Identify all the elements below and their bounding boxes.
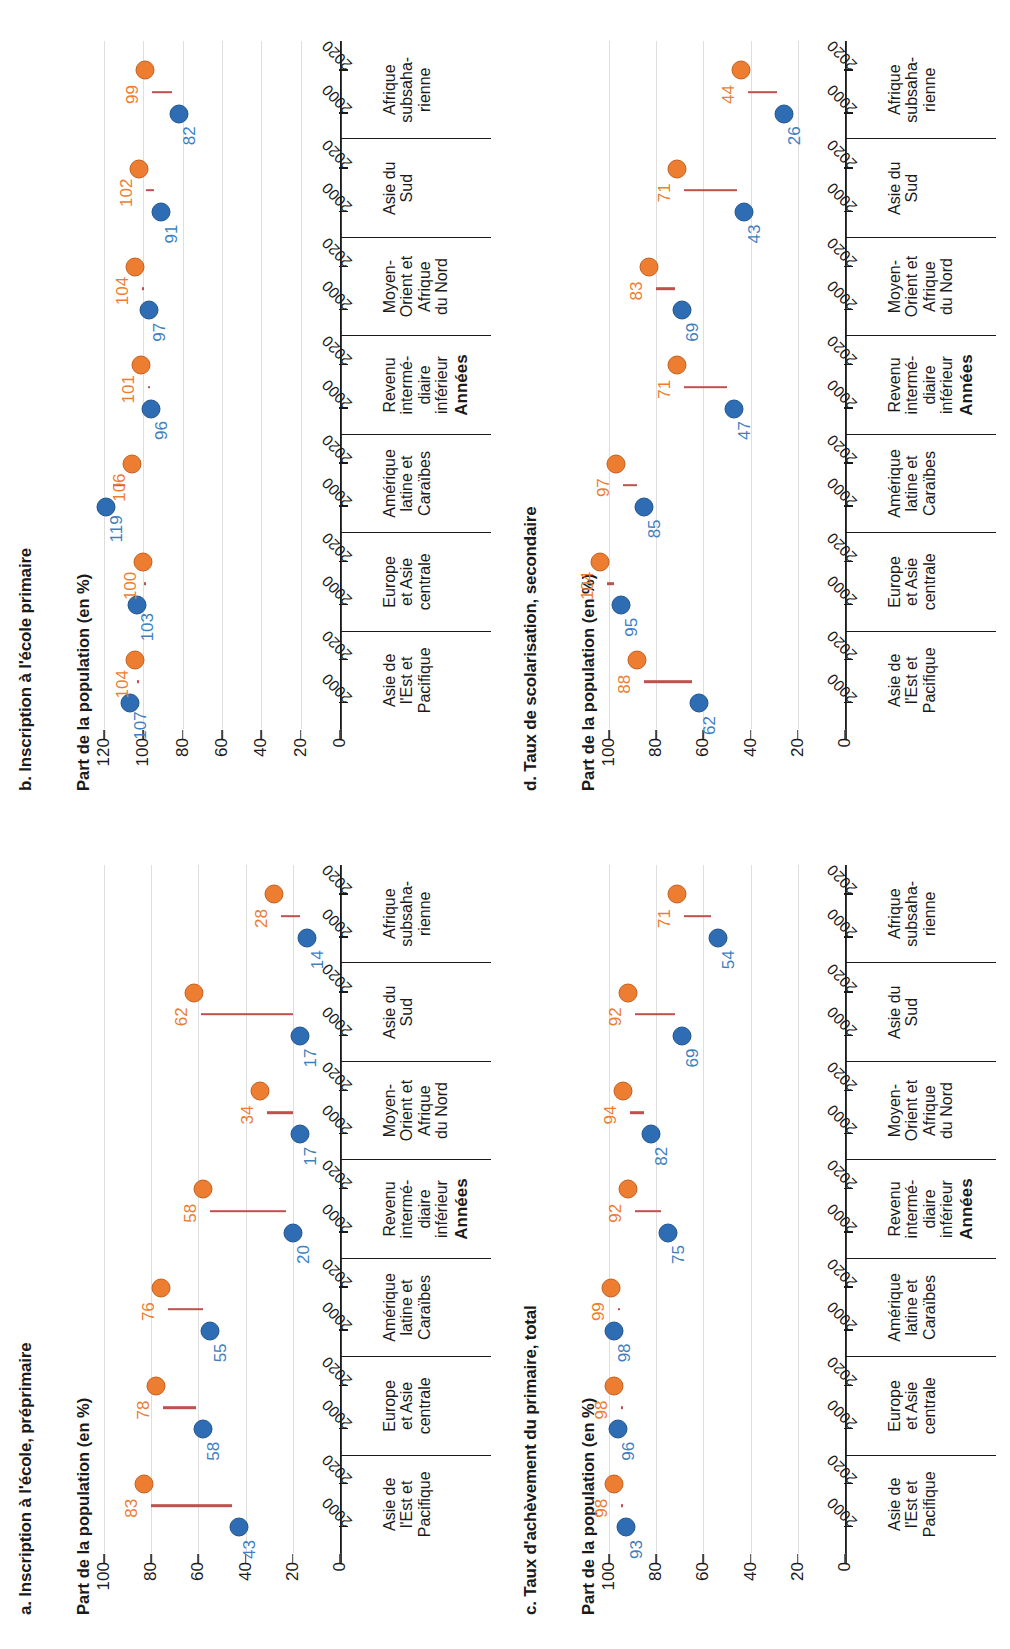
data-point-2000[interactable] — [297, 928, 316, 947]
category-label-line: et Asie — [398, 558, 415, 606]
connector-line — [623, 484, 637, 486]
data-point-2000[interactable] — [283, 1223, 302, 1242]
category-label-line: et Asie — [903, 1382, 920, 1430]
data-label-2020: 104 — [113, 277, 133, 305]
data-label-2020: 94 — [601, 1106, 621, 1125]
data-point-2020[interactable] — [184, 983, 203, 1002]
category-label-line: Caraïbes — [921, 1275, 938, 1340]
gridline — [261, 41, 262, 729]
data-point-2000[interactable] — [194, 1420, 213, 1439]
data-point-2020[interactable] — [194, 1180, 213, 1199]
data-label-2020: 44 — [719, 85, 739, 104]
data-point-2020[interactable] — [668, 885, 687, 904]
data-label-2020: 28 — [252, 909, 272, 928]
data-point-2000[interactable] — [604, 1321, 623, 1340]
data-label-2000: 91 — [162, 225, 182, 244]
y-tick-label: 20 — [788, 738, 808, 757]
data-point-2020[interactable] — [640, 258, 659, 277]
data-point-2020[interactable] — [126, 651, 145, 670]
data-point-2000[interactable] — [642, 1125, 661, 1144]
y-tick-label: 40 — [236, 1562, 256, 1581]
data-point-2020[interactable] — [614, 1082, 633, 1101]
data-point-2020[interactable] — [250, 1082, 269, 1101]
data-label-2000: 43 — [240, 1540, 260, 1559]
data-point-2000[interactable] — [673, 1027, 692, 1046]
data-point-2000[interactable] — [152, 203, 171, 222]
data-point-2020[interactable] — [604, 1475, 623, 1494]
data-label-2020: 76 — [139, 1302, 159, 1321]
category-label-line: latine et — [398, 1279, 415, 1335]
data-label-2000: 69 — [683, 1049, 703, 1068]
data-point-2020[interactable] — [668, 356, 687, 375]
gridline — [104, 865, 105, 1553]
data-label-2000: 107 — [131, 711, 151, 739]
data-point-2020[interactable] — [134, 552, 153, 571]
data-point-2000[interactable] — [290, 1027, 309, 1046]
data-point-2020[interactable] — [135, 1475, 154, 1494]
data-point-2020[interactable] — [607, 454, 626, 473]
data-label-2020: 99 — [123, 85, 143, 104]
data-label-2000: 75 — [669, 1245, 689, 1264]
data-point-2020[interactable] — [151, 1278, 170, 1297]
data-label-2000: 62 — [700, 716, 720, 735]
data-point-2000[interactable] — [673, 301, 692, 320]
data-point-2020[interactable] — [668, 159, 687, 178]
data-point-2000[interactable] — [725, 399, 744, 418]
gridline — [104, 41, 105, 729]
category-label-line: Afrique — [416, 1085, 433, 1136]
y-tick-label: 80 — [646, 1562, 666, 1581]
data-label-2020: 104 — [113, 670, 133, 698]
gridline — [293, 865, 294, 1553]
data-point-2020[interactable] — [604, 1376, 623, 1395]
chart-title-d: d. Taux de scolarisation, secondaire — [521, 507, 541, 791]
gridline — [751, 41, 752, 729]
data-point-2020[interactable] — [628, 651, 647, 670]
data-label-2020: 34 — [238, 1106, 258, 1125]
data-point-2000[interactable] — [229, 1518, 248, 1537]
data-point-2000[interactable] — [734, 203, 753, 222]
category-label-line: Orient et — [903, 1080, 920, 1141]
category-label-line: inférieur — [938, 1180, 955, 1238]
data-point-2020[interactable] — [602, 1278, 621, 1297]
chart-panel-b: b. Inscription à l'école primairePart de… — [0, 1, 505, 825]
data-point-2020[interactable] — [122, 454, 141, 473]
data-point-2020[interactable] — [618, 983, 637, 1002]
chart-panel-c: c. Taux d'achèvement du primaire, totalP… — [505, 825, 1010, 1649]
data-point-2020[interactable] — [132, 356, 151, 375]
data-point-2000[interactable] — [616, 1518, 635, 1537]
data-point-2000[interactable] — [290, 1125, 309, 1144]
data-point-2000[interactable] — [169, 104, 188, 123]
data-point-2000[interactable] — [635, 497, 654, 516]
connector-line — [201, 1013, 293, 1015]
data-point-2000[interactable] — [609, 1420, 628, 1439]
category-label-line: Afrique — [886, 64, 903, 115]
data-label-2020: 102 — [117, 179, 137, 207]
data-point-2020[interactable] — [136, 61, 155, 80]
category-label-line: centrale — [921, 553, 938, 610]
data-point-2020[interactable] — [146, 1376, 165, 1395]
data-point-2000[interactable] — [689, 694, 708, 713]
data-point-2000[interactable] — [774, 104, 793, 123]
y-tick-label: 20 — [283, 1562, 303, 1581]
x-axis-title-a: Années — [452, 865, 472, 1553]
data-point-2020[interactable] — [732, 61, 751, 80]
data-point-2020[interactable] — [130, 159, 149, 178]
category-label-line: diaire — [416, 1189, 433, 1228]
data-label-2000: 93 — [627, 1540, 647, 1559]
data-point-2000[interactable] — [659, 1223, 678, 1242]
data-label-2000: 96 — [619, 1442, 639, 1461]
data-point-2000[interactable] — [142, 399, 161, 418]
x-axis-title-c: Années — [957, 865, 977, 1553]
category-label-line: rienne — [921, 68, 938, 112]
data-point-2020[interactable] — [126, 258, 145, 277]
connector-line — [618, 1308, 620, 1310]
category-label-line: Asie du — [886, 162, 903, 215]
data-point-2000[interactable] — [611, 596, 630, 615]
data-point-2000[interactable] — [201, 1321, 220, 1340]
data-point-2020[interactable] — [264, 885, 283, 904]
data-point-2020[interactable] — [618, 1180, 637, 1199]
data-point-2000[interactable] — [708, 928, 727, 947]
y-tick-label: 0 — [330, 738, 350, 747]
data-point-2020[interactable] — [590, 552, 609, 571]
data-point-2000[interactable] — [140, 301, 159, 320]
